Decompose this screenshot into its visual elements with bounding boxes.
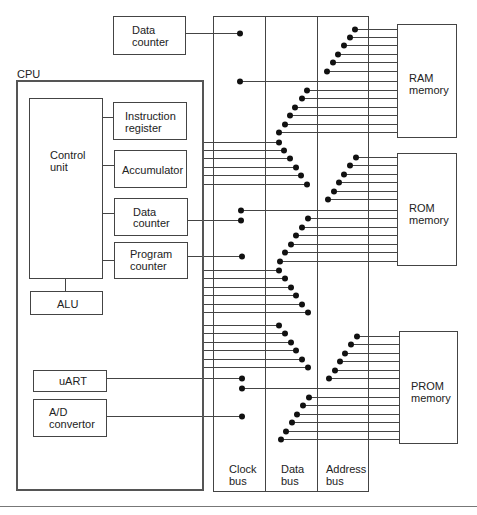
control-unit-box: Control unit — [29, 98, 103, 279]
control-unit-line2: unit — [50, 161, 68, 173]
instruction-register-box: Instruction register — [113, 102, 187, 140]
accumulator-label: Accumulator — [122, 164, 183, 176]
data-bus-line1: Data — [281, 463, 304, 475]
program-counter-line2: counter — [130, 260, 167, 272]
ram-memory-box: RAM memory — [397, 24, 457, 138]
clock-bus-line1: Clock — [229, 463, 257, 475]
ad-convertor-line1: A/D — [49, 406, 67, 418]
alu-box: ALU — [30, 291, 103, 315]
ram-line1: RAM — [409, 72, 433, 84]
rom-line1: ROM — [409, 202, 435, 214]
ad-convertor-line2: convertor — [49, 418, 95, 430]
uart-label: uART — [59, 375, 87, 387]
rom-memory-box: ROM memory — [397, 153, 457, 266]
prom-line1: PROM — [411, 380, 444, 392]
program-counter-box: Program counter — [114, 242, 188, 279]
alu-label: ALU — [57, 298, 78, 310]
prom-line2: memory — [411, 392, 451, 404]
clock-bus-line2: bus — [229, 475, 247, 487]
cpu-data-counter-line2: counter — [133, 217, 170, 229]
rom-line2: memory — [409, 214, 449, 226]
data-bus-line2: bus — [281, 475, 299, 487]
external-data-counter-line2: counter — [132, 36, 169, 48]
address-bus-line2: bus — [326, 475, 344, 487]
cpu-label: CPU — [17, 68, 40, 80]
prom-memory-box: PROM memory — [399, 331, 458, 444]
address-bus-line1: Address — [326, 463, 366, 475]
instruction-register-line2: register — [125, 122, 162, 134]
ram-line2: memory — [409, 84, 449, 96]
instruction-register-line1: Instruction — [125, 110, 176, 122]
external-data-counter-box: Data counter — [113, 16, 186, 55]
uart-box: uART — [33, 370, 107, 392]
control-unit-line1: Control — [50, 149, 85, 161]
program-counter-line1: Program — [130, 248, 172, 260]
ad-convertor-box: A/D convertor — [33, 399, 107, 437]
accumulator-box: Accumulator — [114, 150, 187, 188]
external-data-counter-line1: Data — [132, 24, 155, 36]
connection-dots — [237, 27, 360, 443]
cpu-data-counter-box: Data counter — [114, 198, 188, 236]
